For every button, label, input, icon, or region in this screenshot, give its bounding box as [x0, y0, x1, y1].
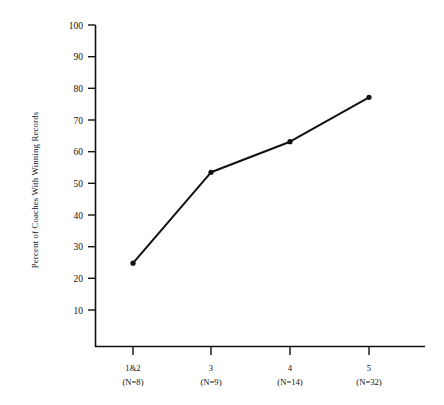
- y-axis-title: Percent of Coaches With Winning Records: [30, 111, 40, 268]
- y-tick-label-50: 50: [74, 179, 84, 189]
- data-point-1: [208, 170, 213, 175]
- chart-canvas: 100 90 80 70 60 50 40 30 20 10 1&2 (N=8)…: [0, 0, 444, 405]
- x-category-label-2: 4: [288, 363, 293, 373]
- y-tick-label-60: 60: [74, 147, 84, 157]
- data-point-3: [366, 95, 371, 100]
- line-chart: 100 90 80 70 60 50 40 30 20 10 1&2 (N=8)…: [0, 0, 444, 405]
- x-category-label-3: 5: [367, 363, 371, 373]
- y-tick-label-100: 100: [69, 21, 84, 31]
- x-category-sublabel-2: (N=14): [277, 377, 303, 387]
- x-category-label-0: 1&2: [125, 363, 140, 373]
- y-tick-label-70: 70: [74, 116, 84, 126]
- x-category-label-1: 3: [209, 363, 213, 373]
- data-point-2: [287, 139, 292, 144]
- y-tick-label-80: 80: [74, 84, 84, 94]
- x-category-sublabel-1: (N=9): [200, 377, 221, 387]
- data-point-0: [130, 261, 135, 266]
- x-category-sublabel-3: (N=32): [356, 377, 382, 387]
- x-category-sublabel-0: (N=8): [122, 377, 143, 387]
- y-tick-label-20: 20: [74, 274, 84, 284]
- y-tick-label-40: 40: [74, 211, 84, 221]
- chart-background: [0, 0, 444, 405]
- y-tick-label-10: 10: [74, 306, 84, 316]
- y-tick-label-90: 90: [74, 52, 84, 62]
- y-tick-label-30: 30: [74, 242, 84, 252]
